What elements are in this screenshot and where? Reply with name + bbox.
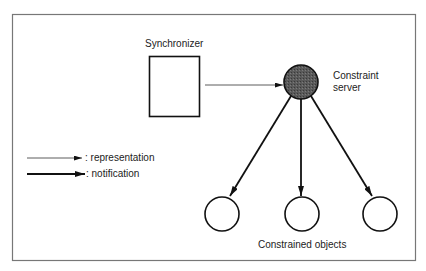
legend: : representation : notification [27,152,155,179]
synchronizer-box [150,57,200,117]
notification-edge-1 [230,96,291,196]
constraint-server-label-line2: server [333,82,361,93]
constrained-objects-label: Constrained objects [258,239,346,250]
synchronizer-label: Synchronizer [145,38,204,49]
diagram-canvas: Synchronizer Constraint server Constrain… [0,0,426,271]
legend-representation-label: : representation [85,152,155,163]
constraint-server-label-line1: Constraint [333,70,379,81]
constrained-object-2 [285,197,319,231]
notification-edge-3 [311,96,372,196]
constrained-object-1 [205,197,239,231]
constraint-server-node [284,65,318,99]
constrained-object-3 [363,197,397,231]
legend-notification-label: : notification [86,168,139,179]
